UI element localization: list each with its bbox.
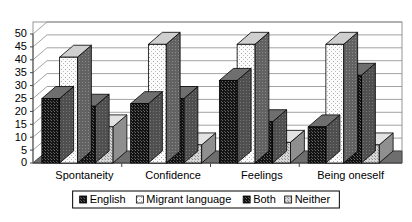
category-ticks: [122, 163, 300, 167]
bar-english-spontaneity: [42, 87, 74, 164]
bar-side-face: [361, 63, 375, 163]
bar-side-face: [255, 32, 269, 163]
y-axis-tick-label: 40: [15, 53, 27, 65]
y-axis-tick-label: 15: [15, 118, 27, 130]
bar-english-feelings: [219, 68, 251, 163]
legend-label-both: Both: [253, 193, 276, 205]
bar-side-face: [166, 32, 180, 163]
y-axis-tick-label: 25: [15, 92, 27, 104]
legend-swatch-english: [80, 196, 87, 203]
legend-label-neither: Neither: [295, 193, 331, 205]
y-axis-tick-label: 35: [15, 66, 27, 78]
y-axis-labels: 05101520253035404550: [15, 27, 27, 168]
bar-front-face: [219, 80, 237, 163]
category-labels: SpontaneityConfidenceFeelingsBeing onese…: [55, 169, 385, 181]
bar-side-face: [237, 68, 251, 163]
y-axis-tick-label: 30: [15, 79, 27, 91]
category-label: Being oneself: [317, 169, 385, 181]
y-axis-tick-label: 20: [15, 105, 27, 117]
bar-chart: 05101520253035404550 SpontaneityConfiden…: [0, 0, 412, 222]
legend-label-migrant-language: Migrant language: [146, 193, 231, 205]
y-axis-tick-label: 45: [15, 40, 27, 52]
legend-swatch-migrant-language: [136, 196, 143, 203]
bar-front-face: [131, 104, 149, 163]
bar-side-face: [344, 32, 358, 163]
y-axis-tick-label: 50: [15, 27, 27, 39]
y-axis-tick-label: 0: [21, 156, 27, 168]
bar-front-face: [308, 127, 326, 163]
chart-canvas: 05101520253035404550 SpontaneityConfiden…: [0, 0, 412, 222]
bar-side-face: [77, 45, 91, 163]
category-label: Spontaneity: [55, 169, 114, 181]
bar-side-face: [184, 87, 198, 164]
legend-swatch-neither: [285, 196, 292, 203]
legend-label-english: English: [90, 193, 126, 205]
y-axis-tick-label: 10: [15, 131, 27, 143]
bar-front-face: [42, 99, 60, 164]
bar-side-face: [60, 87, 74, 164]
category-label: Feelings: [241, 169, 283, 181]
y-axis-tick-label: 5: [21, 144, 27, 156]
bar-english-confidence: [131, 92, 163, 163]
chart-legend: EnglishMigrant languageBothNeither: [73, 191, 340, 208]
category-label: Confidence: [145, 169, 201, 181]
legend-swatch-both: [243, 196, 250, 203]
